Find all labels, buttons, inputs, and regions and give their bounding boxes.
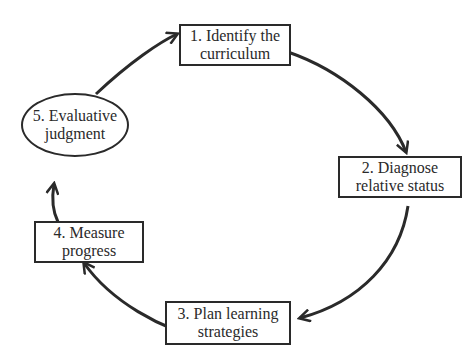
node-diagnose-status: 2. Diagnose relative status [338, 156, 462, 198]
node-identify-curriculum: 1. Identify the curriculum [179, 24, 291, 66]
node-measure-progress: 4. Measure progress [34, 221, 144, 263]
arrow-2-to-3 [300, 206, 408, 318]
arrow-5-to-1 [96, 34, 177, 94]
node-label: 5. Evaluative judgment [33, 107, 117, 143]
node-plan-strategies: 3. Plan learning strategies [165, 301, 291, 345]
node-label: 2. Diagnose relative status [356, 159, 444, 195]
node-label: 4. Measure progress [53, 224, 124, 260]
node-label: 3. Plan learning strategies [178, 305, 279, 341]
node-label: 1. Identify the curriculum [190, 27, 280, 63]
arrow-4-to-5 [53, 184, 58, 222]
node-evaluative-judgment: 5. Evaluative judgment [21, 93, 129, 157]
arrow-1-to-2 [288, 52, 406, 152]
